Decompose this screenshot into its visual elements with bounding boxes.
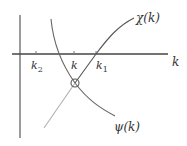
diagram-canvas: χ(k) ψ(k) k k2 k k1 xyxy=(0,0,187,146)
tick-label-k1: k1 xyxy=(96,59,108,74)
chi-label: χ(k) xyxy=(135,11,160,25)
tick-label-k: k xyxy=(71,59,78,72)
psi-label: ψ(k) xyxy=(114,120,140,134)
x-axis-label: k xyxy=(172,55,179,69)
chi-curve-lower xyxy=(44,83,75,128)
tick-label-k2: k2 xyxy=(31,59,43,74)
